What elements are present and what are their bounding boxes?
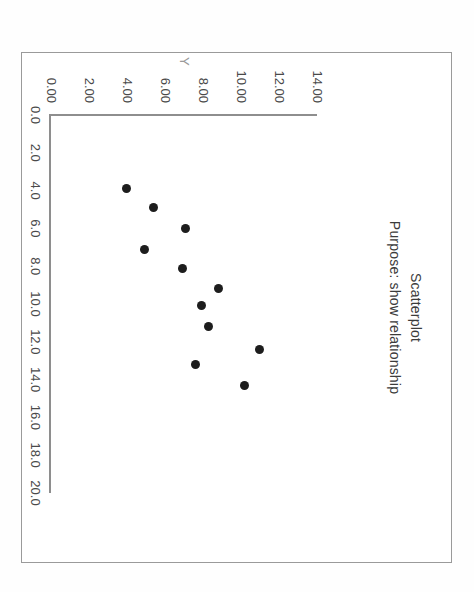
x-tick-label: 8.0: [28, 257, 43, 275]
plot-area: 0.02.04.06.08.010.012.014.016.018.020.0 …: [51, 115, 317, 493]
x-tick-label: 14.0: [28, 367, 43, 392]
y-tick-label: 2.00: [82, 78, 97, 103]
scatter-point: [214, 284, 223, 293]
y-tick-label: 0.00: [44, 78, 59, 103]
y-tick-label: 8.00: [196, 78, 211, 103]
scatter-point: [256, 345, 265, 354]
scatter-point: [204, 322, 213, 331]
chart-frame: Scatterplot Purpose: show relationship 0…: [21, 52, 452, 563]
x-tick-label: 20.0: [28, 480, 43, 505]
scatter-point: [123, 184, 132, 193]
x-tick-label: 10.0: [28, 291, 43, 316]
scatter-point: [149, 203, 158, 212]
x-tick-label: 12.0: [28, 329, 43, 354]
y-axis-line: [50, 114, 317, 116]
x-tick-label: 4.0: [28, 182, 43, 200]
chart-subtitle: Purpose: show relationship: [384, 52, 405, 563]
scatter-point: [240, 381, 249, 390]
rotated-chart-canvas: Scatterplot Purpose: show relationship 0…: [21, 52, 452, 563]
y-tick-label: 12.00: [272, 70, 287, 103]
y-tick-label: 10.00: [234, 70, 249, 103]
x-tick-label: 18.0: [28, 443, 43, 468]
x-tick-label: 2.0: [28, 144, 43, 162]
scatter-point: [140, 245, 149, 254]
x-axis-line: [50, 114, 52, 493]
scanned-page: Scatterplot Purpose: show relationship 0…: [0, 0, 474, 592]
chart-title-block: Scatterplot Purpose: show relationship: [384, 52, 426, 563]
scatter-point: [178, 264, 187, 273]
x-tick-label: 6.0: [28, 219, 43, 237]
y-axis-title: Y: [177, 57, 192, 66]
y-tick-label: 6.00: [158, 78, 173, 103]
x-tick-label: 0.0: [28, 106, 43, 124]
scatter-point: [181, 224, 190, 233]
x-tick-label: 16.0: [28, 405, 43, 430]
scatter-point: [191, 360, 200, 369]
scatter-point: [197, 301, 206, 310]
chart-title: Scatterplot: [405, 52, 426, 563]
y-tick-label: 14.00: [310, 70, 325, 103]
y-tick-label: 4.00: [120, 78, 135, 103]
